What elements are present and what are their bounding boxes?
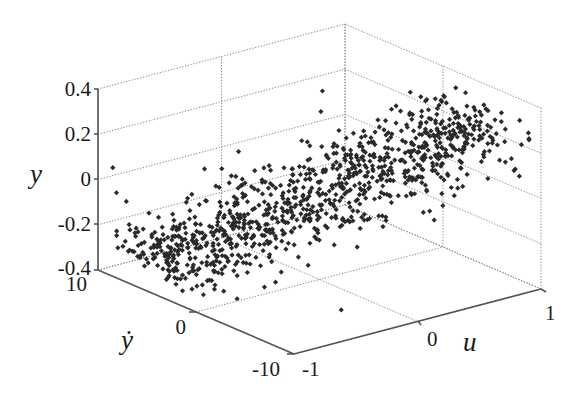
data-point — [127, 227, 132, 232]
data-point — [350, 208, 355, 213]
data-point — [200, 282, 205, 287]
data-point — [318, 109, 323, 114]
data-point — [473, 113, 478, 118]
data-point — [160, 232, 165, 237]
data-point — [261, 165, 266, 170]
data-point — [156, 215, 161, 220]
data-point — [202, 166, 207, 171]
data-point — [449, 153, 454, 158]
data-point — [398, 108, 403, 113]
data-point — [320, 88, 325, 93]
data-point — [114, 233, 119, 238]
data-point — [141, 226, 146, 231]
data-point — [194, 283, 199, 288]
data-point — [443, 131, 448, 136]
data-point — [447, 117, 452, 122]
data-point — [421, 210, 426, 215]
data-point — [287, 183, 292, 188]
data-point — [358, 169, 363, 174]
data-point — [298, 224, 303, 229]
data-point — [368, 135, 373, 140]
data-point — [375, 117, 380, 122]
data-point — [396, 193, 401, 198]
data-point — [393, 120, 398, 125]
data-point — [299, 138, 304, 143]
data-point — [470, 143, 475, 148]
data-point — [386, 146, 391, 151]
data-point — [205, 254, 210, 259]
data-point — [260, 191, 265, 196]
data-point — [306, 263, 311, 268]
data-point — [355, 244, 360, 249]
data-point — [114, 228, 119, 233]
data-point — [281, 165, 286, 170]
data-point — [358, 226, 363, 231]
ydot-tick-label: -10 — [252, 357, 280, 381]
data-point — [411, 128, 416, 133]
data-point — [185, 196, 190, 201]
data-point — [229, 253, 234, 258]
data-point — [187, 255, 192, 260]
data-point — [458, 165, 463, 170]
data-point — [497, 158, 502, 163]
data-point — [245, 270, 250, 275]
data-point — [171, 218, 176, 223]
data-point — [146, 210, 151, 215]
data-point — [247, 261, 252, 266]
data-point — [453, 85, 458, 90]
data-point — [455, 186, 460, 191]
data-point — [499, 119, 504, 124]
data-point — [503, 127, 508, 132]
data-point — [323, 198, 328, 203]
data-point — [363, 133, 368, 138]
data-point — [274, 245, 279, 250]
data-point — [268, 192, 273, 197]
scatter3d-chart: 0.4 0.2 0 -0.2 -0.4 10 0 -10 -1 0 1 y ẏ … — [0, 0, 577, 400]
data-point — [262, 285, 267, 290]
data-point — [418, 94, 423, 99]
data-point — [160, 266, 165, 271]
data-point — [332, 242, 337, 247]
u-tick-label: -1 — [302, 357, 320, 381]
data-point — [115, 245, 120, 250]
data-point — [344, 135, 349, 140]
data-point — [295, 178, 300, 183]
data-point — [370, 175, 375, 180]
data-point — [124, 199, 129, 204]
data-point — [463, 90, 468, 95]
data-point — [487, 148, 492, 153]
data-point — [127, 222, 132, 227]
data-point — [235, 273, 240, 278]
data-point — [432, 218, 437, 223]
data-point — [526, 130, 531, 135]
data-point — [185, 262, 190, 267]
data-point — [357, 201, 362, 206]
data-point — [380, 224, 385, 229]
data-point — [199, 260, 204, 265]
data-point — [258, 263, 263, 268]
data-point — [357, 192, 362, 197]
data-point — [123, 239, 128, 244]
data-point — [120, 244, 125, 249]
data-point — [236, 149, 241, 154]
data-point — [474, 119, 479, 124]
data-point — [268, 168, 273, 173]
data-point — [479, 159, 484, 164]
data-point — [292, 242, 297, 247]
data-point — [366, 180, 371, 185]
data-point — [502, 139, 507, 144]
data-point — [279, 270, 284, 275]
data-point — [336, 128, 341, 133]
data-point — [279, 239, 284, 244]
z-tick-label: 0.4 — [65, 77, 92, 101]
data-point — [517, 174, 522, 179]
data-point — [187, 208, 192, 213]
data-point — [160, 225, 165, 230]
data-point — [390, 147, 395, 152]
data-point — [361, 128, 366, 133]
data-point — [399, 128, 404, 133]
data-point — [426, 107, 431, 112]
data-point — [359, 135, 364, 140]
data-point — [464, 172, 469, 177]
data-point — [499, 110, 504, 115]
